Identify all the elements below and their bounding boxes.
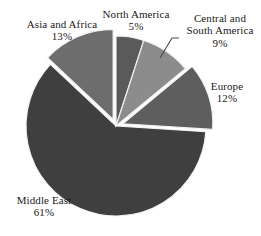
pie-label-middle-east: Middle East 61% <box>2 194 86 219</box>
pie-label-central-and-south-america-name-line2: South America <box>178 24 261 36</box>
pie-chart: Asia and Africa 13% North America 5% Cen… <box>0 0 261 236</box>
pie-label-europe-name: Europe <box>196 80 258 92</box>
pie-label-middle-east-value: 61% <box>2 206 86 218</box>
pie-label-north-america: North America 5% <box>88 8 184 33</box>
pie-label-europe-value: 12% <box>196 92 258 104</box>
pie-label-north-america-name: North America <box>88 8 184 20</box>
pie-label-middle-east-name: Middle East <box>2 194 86 206</box>
pie-label-europe: Europe 12% <box>196 80 258 105</box>
pie-label-central-and-south-america: Central and South America 9% <box>178 12 261 49</box>
pie-label-north-america-value: 5% <box>88 20 184 32</box>
pie-label-central-and-south-america-value: 9% <box>178 37 261 49</box>
pie-label-central-and-south-america-name-line1: Central and <box>178 12 261 24</box>
